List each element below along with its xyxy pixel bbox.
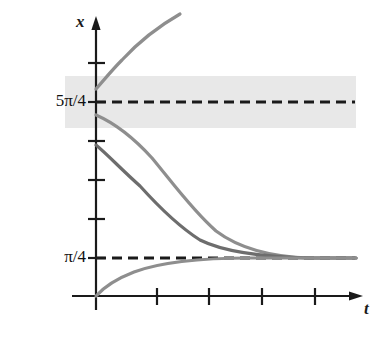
y-tick-label-pi-over-4: π/4 — [14, 248, 86, 265]
curve-solution-below-pi-over-4 — [96, 258, 356, 296]
y-axis-arrowhead — [91, 16, 100, 30]
curve-solution-below-5pi-over-4 — [96, 115, 356, 258]
x-axis-arrowhead — [349, 291, 363, 300]
curve-solution-mid-decaying — [96, 145, 356, 258]
plot-canvas — [0, 0, 391, 342]
figure-container: x t 5π/4 π/4 — [0, 0, 391, 342]
y-axis-label: x — [76, 13, 85, 30]
x-axis-group — [72, 288, 363, 305]
y-tick-label-5pi-over-4: 5π/4 — [14, 92, 86, 109]
y-axis-group — [88, 16, 105, 310]
x-axis-label: t — [364, 300, 369, 317]
